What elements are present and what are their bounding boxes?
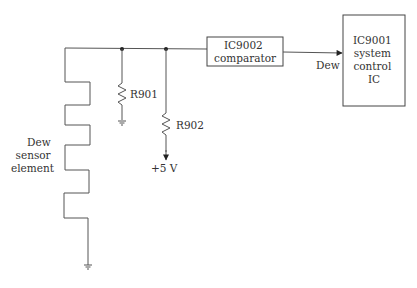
sensor-label: Dew sensor element [11, 136, 55, 174]
dew-sensor-element [64, 48, 90, 265]
r901-ground-icon [118, 121, 126, 125]
resistor-r902 [162, 49, 170, 160]
dew-signal-wire [283, 52, 342, 53]
supply-voltage-label: +5 V [151, 162, 178, 174]
sensor-ground-icon [84, 265, 92, 269]
top-bus-wire [65, 48, 207, 49]
dew-sensor-circuit-diagram: Dew sensor element R901 R902 +5 V IC9002… [0, 0, 417, 288]
r902-label: R902 [176, 119, 204, 131]
dew-signal-label: Dew [316, 59, 340, 71]
r901-label: R901 [130, 88, 158, 100]
resistor-r901 [118, 49, 126, 120]
